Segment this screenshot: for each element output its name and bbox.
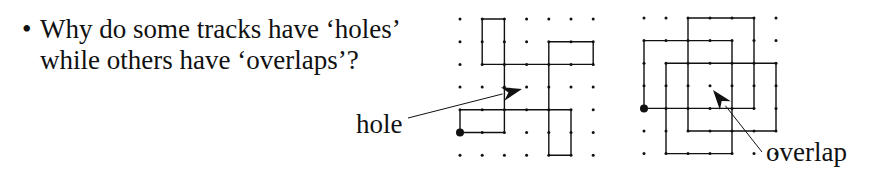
grid-dot	[643, 17, 646, 20]
grid-dot	[459, 18, 462, 21]
arrow-shaft	[725, 106, 762, 152]
grid-dot	[570, 18, 573, 21]
track-diagrams	[0, 0, 872, 176]
grid-dot	[503, 154, 506, 157]
grid-dot	[459, 154, 462, 157]
grid-dot	[459, 40, 462, 43]
grid-dot	[525, 154, 528, 157]
grid-dot	[459, 63, 462, 66]
grid-dot	[775, 17, 778, 20]
start-point-marker	[456, 129, 464, 137]
grid-dot	[753, 152, 756, 155]
grid-dot	[592, 86, 595, 89]
grid-dot	[592, 154, 595, 157]
start-point-marker	[640, 104, 648, 112]
grid-dot	[592, 18, 595, 21]
grid-dot	[570, 86, 573, 89]
grid-dot	[643, 130, 646, 133]
grid-dot	[525, 18, 528, 21]
arrow-shaft	[408, 94, 503, 118]
grid-dot	[481, 86, 484, 89]
grid-dot	[665, 17, 668, 20]
grid-dot	[592, 131, 595, 134]
grid-dot	[481, 154, 484, 157]
grid-dot	[592, 108, 595, 111]
grid-dot	[459, 86, 462, 89]
grid-dot	[775, 39, 778, 42]
grid-dot	[775, 152, 778, 155]
grid-dot	[547, 18, 550, 21]
grid-dot	[525, 131, 528, 134]
grid-dot	[709, 84, 712, 87]
grid-dot	[643, 152, 646, 155]
grid-dot	[525, 86, 528, 89]
grid-dot	[525, 40, 528, 43]
arrowhead-icon	[713, 90, 731, 110]
